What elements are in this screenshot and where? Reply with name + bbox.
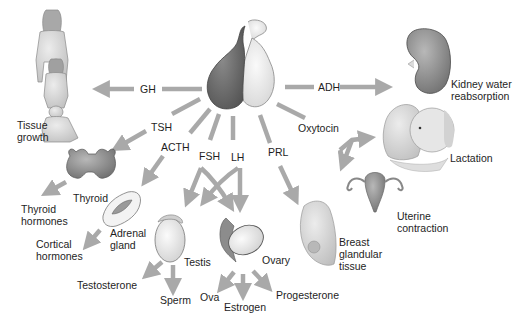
prl-arrow-segment — [260, 115, 270, 143]
hormone-label-oxytocin: Oxytocin — [298, 122, 339, 134]
target-label-uterine-contraction: Uterine contraction — [397, 210, 457, 234]
target-label-cortical-hormones: Cortical hormones — [36, 238, 91, 262]
tsh-arrow-segment — [172, 99, 200, 114]
pituitary-stalk — [248, 20, 266, 40]
acth-arrow-segment — [190, 109, 210, 133]
breast-illustration — [300, 201, 336, 265]
pituitary-hormone-diagram: GH TSH ACTH FSH LH PRL Oxytocin ADH Tiss… — [0, 0, 531, 327]
hormone-label-adh: ADH — [318, 81, 340, 93]
kidney-illustration — [407, 29, 451, 94]
pituitary-gland — [207, 20, 274, 109]
hormone-label-acth: ACTH — [161, 141, 190, 153]
target-label-tissue-growth: Tissue growth — [17, 119, 57, 143]
thyroid-hormones-arrow — [48, 182, 66, 192]
oxytocin-arrow-segment — [277, 104, 305, 118]
hormone-label-fsh: FSH — [199, 150, 220, 162]
oxytocin-to-lactation-arrow — [340, 138, 368, 150]
hormone-label-prl: PRL — [268, 146, 288, 158]
target-label-thyroid-hormones: Thyroid hormones — [21, 203, 71, 227]
target-label-testis: Testis — [184, 256, 211, 268]
target-label-sperm: Sperm — [160, 294, 191, 306]
target-label-estrogen: Estrogen — [224, 301, 266, 313]
adrenal-gland-illustration — [103, 192, 141, 227]
target-label-ova: Ova — [200, 291, 219, 303]
anterior-lobe — [207, 26, 245, 109]
posterior-lobe — [241, 38, 274, 107]
target-label-progesterone: Progesterone — [276, 289, 339, 301]
testis-illustration — [155, 215, 185, 262]
target-label-thyroid: Thyroid — [73, 192, 108, 204]
tsh-arrow — [118, 131, 146, 147]
testosterone-arrow — [148, 262, 162, 274]
hormone-label-lh: LH — [231, 151, 244, 163]
target-label-breast-glandular-tissue: Breast glandular tissue — [339, 236, 389, 272]
target-label-testosterone: Testosterone — [77, 279, 137, 291]
lactation-illustration — [383, 105, 454, 172]
hormone-label-gh: GH — [140, 83, 156, 95]
target-label-adrenal-gland: Adrenal gland — [110, 227, 150, 251]
fsh-to-testis-arrow — [188, 168, 201, 200]
ovary-illustration — [220, 218, 268, 262]
target-label-kidney-water-reabsorption: Kidney water reabsorption — [451, 78, 531, 102]
target-label-lactation: Lactation — [450, 152, 493, 164]
progesterone-arrow — [253, 271, 267, 286]
target-label-ovary: Ovary — [262, 254, 290, 266]
uterus-illustration — [347, 173, 402, 213]
thyroid-illustration — [67, 149, 116, 178]
prl-arrow — [280, 166, 295, 198]
hormone-label-tsh: TSH — [151, 121, 172, 133]
acth-arrow — [146, 156, 163, 180]
fsh-arrow-segment — [210, 114, 219, 140]
ova-arrow — [222, 272, 234, 287]
